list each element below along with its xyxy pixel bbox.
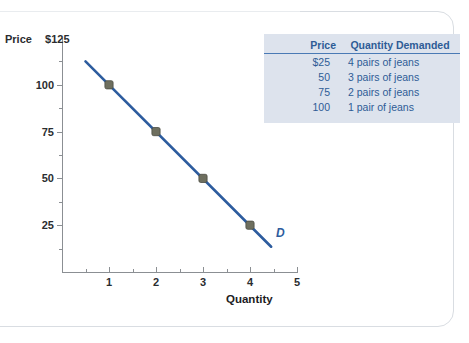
table-head: Price Quantity Demanded <box>264 38 460 54</box>
demand-schedule-table: Price Quantity Demanded $254 pairs of je… <box>264 34 460 123</box>
table-cell-price: 100 <box>264 99 340 114</box>
demand-line <box>86 61 272 246</box>
demand-schedule-grid: Price Quantity Demanded $254 pairs of je… <box>264 38 460 114</box>
table-cell-quantity: 2 pairs of jeans <box>340 84 460 99</box>
table-row: 503 pairs of jeans <box>264 69 460 84</box>
table-cell-price: $25 <box>264 54 340 70</box>
data-point-marker <box>246 221 254 229</box>
table-row: 1001 pair of jeans <box>264 99 460 114</box>
table-cell-price: 75 <box>264 84 340 99</box>
table-header-row: Price Quantity Demanded <box>264 38 460 54</box>
table-body: $254 pairs of jeans503 pairs of jeans752… <box>264 54 460 115</box>
data-point-marker <box>105 81 113 89</box>
table-cell-quantity: 3 pairs of jeans <box>340 69 460 84</box>
demand-curve-label: D <box>276 226 285 240</box>
chart-screenshot: Price $125 Quantity 100755025 12345 D Pr… <box>0 0 469 343</box>
table-header-price: Price <box>264 38 340 54</box>
data-point-marker <box>199 174 207 182</box>
table-cell-price: 50 <box>264 69 340 84</box>
table-cell-quantity: 4 pairs of jeans <box>340 54 460 70</box>
table-cell-quantity: 1 pair of jeans <box>340 99 460 114</box>
table-row: 752 pairs of jeans <box>264 84 460 99</box>
data-point-marker <box>152 128 160 136</box>
table-header-quantity: Quantity Demanded <box>340 38 460 54</box>
table-row: $254 pairs of jeans <box>264 54 460 70</box>
